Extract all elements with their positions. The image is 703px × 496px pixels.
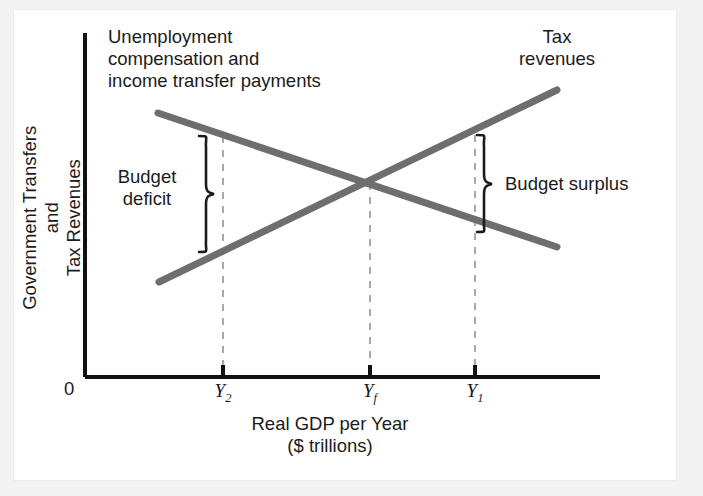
x-tick-label-y1-sub: 1	[477, 391, 483, 405]
figure-container: Unemployment compensation and income tra…	[0, 0, 703, 496]
origin-label: 0	[64, 378, 74, 400]
x-tick-label-y1-base: Y	[467, 380, 478, 401]
x-tick-label-y2: Y2	[193, 380, 253, 406]
tax-revenues-line	[159, 90, 557, 282]
x-tick-label-y2-base: Y	[215, 380, 226, 401]
annotation-budget-surplus-label: Budget surplus	[505, 173, 628, 195]
dashed-guides	[223, 135, 475, 372]
x-tick-label-yf-sub: f	[374, 391, 377, 405]
x-tick-label-yf: Yf	[340, 380, 400, 406]
x-axis-title: Real GDP per Year ($ trillions)	[180, 413, 480, 457]
annotation-tax-revenues-label: Tax revenues	[487, 26, 627, 70]
annotation-transfers-label: Unemployment compensation and income tra…	[108, 26, 321, 91]
x-tick-label-y1: Y1	[445, 380, 505, 406]
transfers-line	[158, 113, 557, 247]
annotation-budget-deficit-label: Budget deficit	[104, 166, 190, 210]
x-tick-label-y2-sub: 2	[225, 391, 231, 405]
x-tick-label-yf-base: Y	[363, 380, 374, 401]
data-series	[158, 90, 557, 282]
y-axis-title: Government Transfers and Tax Revenues	[19, 108, 84, 328]
brace-budget-deficit	[199, 136, 214, 252]
